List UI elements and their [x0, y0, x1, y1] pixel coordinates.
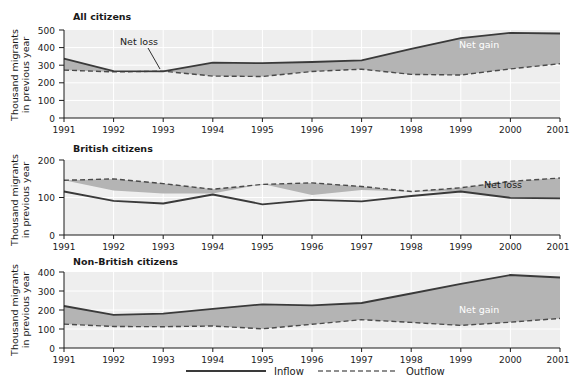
x-tick-label: 1996	[301, 355, 324, 365]
x-tick-label: 1996	[301, 125, 324, 135]
x-tick-label: 1997	[350, 242, 373, 252]
x-tick-label: 1991	[53, 125, 76, 135]
y-tick-label: 300	[38, 61, 55, 71]
x-tick-label: 2001	[547, 125, 570, 135]
y-tick-label: 300	[38, 287, 55, 297]
y-axis-title-line-1: Thousand migrants	[9, 154, 20, 247]
x-tick-label: 1993	[152, 125, 175, 135]
y-axis-title-line-1: Thousand migrants	[9, 264, 20, 357]
panel-title-british-citizens: British citizens	[73, 143, 153, 154]
x-tick-label: 1995	[251, 242, 274, 252]
x-tick-label: 2000	[499, 355, 522, 365]
annotation-net-gain-panel-1: Net gain	[459, 39, 499, 50]
x-tick-label: 1992	[102, 125, 125, 135]
migration-flows-figure: All citizens Thousand migrants in previo…	[0, 0, 572, 379]
x-tick-label: 1997	[350, 355, 373, 365]
panel-title-non-british-citizens: Non-British citizens	[73, 256, 178, 267]
x-tick-label: 1997	[350, 125, 373, 135]
annotation-net-gain-panel-3: Net gain	[459, 304, 499, 315]
y-tick-label: 500	[38, 26, 55, 36]
y-tick-label: 100	[38, 325, 55, 335]
x-tick-label: 1994	[201, 355, 224, 365]
x-tick-label: 1994	[201, 125, 224, 135]
x-tick-label: 1999	[449, 242, 472, 252]
x-tick-label: 1993	[152, 355, 175, 365]
y-axis-title-line-2: in previous year	[20, 162, 31, 239]
x-tick-label: 2001	[547, 242, 570, 252]
y-tick-label: 0	[49, 114, 55, 124]
legend-label-outflow: Outflow	[406, 366, 445, 377]
x-tick-label: 1999	[449, 355, 472, 365]
x-tick-label: 1996	[301, 242, 324, 252]
x-tick-label: 1993	[152, 242, 175, 252]
y-axis-title-panel-2: Thousand migrants in previous year	[9, 154, 31, 247]
x-tick-label: 1995	[251, 355, 274, 365]
annotation-net-loss-panel-2: Net loss	[484, 179, 522, 190]
y-tick-label: 0	[49, 344, 55, 354]
x-tick-label: 2000	[499, 242, 522, 252]
y-axis-title-panel-3: Thousand migrants in previous year	[9, 264, 31, 357]
y-axis-title-line-1: Thousand migrants	[9, 29, 20, 122]
x-tick-label: 2001	[547, 355, 570, 365]
x-tick-label: 1992	[102, 355, 125, 365]
x-tick-label: 1991	[53, 355, 76, 365]
y-tick-label: 100	[38, 193, 55, 203]
y-tick-label: 200	[38, 78, 55, 88]
legend-label-inflow: Inflow	[274, 366, 304, 377]
y-axis-title-line-2: in previous year	[20, 37, 31, 114]
x-tick-label: 1991	[53, 242, 76, 252]
x-tick-label: 1998	[400, 355, 423, 365]
y-tick-label: 400	[38, 268, 55, 278]
x-tick-label: 1998	[400, 125, 423, 135]
y-tick-label: 0	[49, 231, 55, 241]
y-tick-label: 200	[38, 306, 55, 316]
x-tick-label: 1995	[251, 125, 274, 135]
y-tick-label: 400	[38, 43, 55, 53]
panel-title-all-citizens: All citizens	[73, 11, 132, 22]
y-axis-title-line-2: in previous year	[20, 272, 31, 349]
x-tick-label: 1994	[201, 242, 224, 252]
x-tick-label: 1999	[449, 125, 472, 135]
y-axis-title-panel-1: Thousand migrants in previous year	[9, 29, 31, 122]
x-tick-label: 1992	[102, 242, 125, 252]
x-tick-label: 1998	[400, 242, 423, 252]
x-tick-label: 2000	[499, 125, 522, 135]
annotation-net-loss-panel-1: Net loss	[120, 36, 158, 47]
y-tick-label: 100	[38, 96, 55, 106]
y-tick-label: 200	[38, 156, 55, 166]
